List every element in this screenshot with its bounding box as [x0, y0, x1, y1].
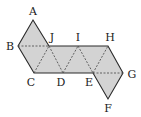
vertex-label-d: D	[57, 76, 66, 89]
vertex-label-e: E	[85, 76, 93, 89]
vertex-label-g: G	[128, 68, 137, 81]
vertex-label-i: I	[76, 31, 80, 44]
vertex-label-a: A	[28, 5, 38, 18]
vertex-label-b: B	[6, 40, 14, 53]
vertex-label-j: J	[49, 31, 54, 44]
vertex-label-f: F	[104, 102, 112, 115]
vertex-label-h: H	[105, 31, 115, 44]
net-svg: A B C D E F G H I J	[0, 0, 141, 117]
vertex-label-c: C	[27, 76, 35, 89]
net-diagram: A B C D E F G H I J	[0, 0, 141, 117]
